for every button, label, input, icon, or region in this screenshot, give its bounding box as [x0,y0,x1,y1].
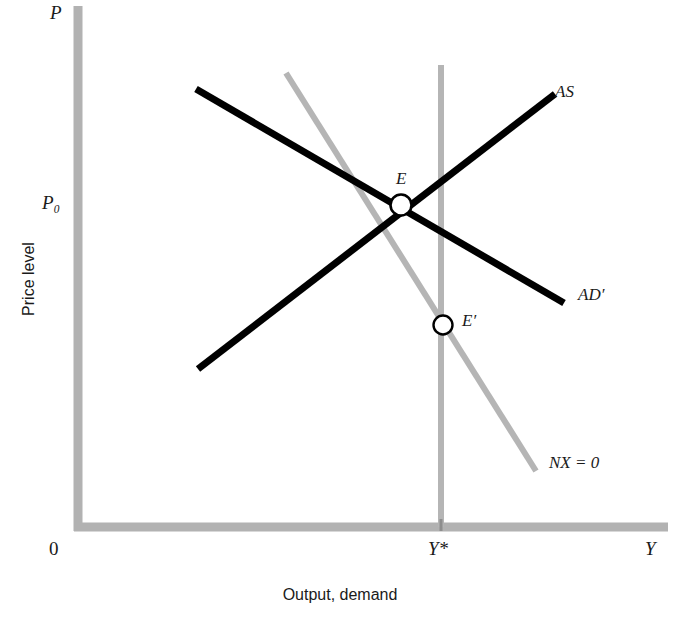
ad-prime-curve[interactable] [196,89,564,303]
x-axis-symbol-label: Y [645,538,656,560]
y-axis-tick-label-p0: P₀ [42,192,60,214]
y-axis-symbol-label: P [50,2,62,24]
curve-label-nx-zero: NX = 0 [549,453,599,473]
curve-label-ad-prime: AD′ [578,285,604,305]
x-axis-tick-label-y-star: Y* [428,538,448,560]
y-axis-title: Price level [20,224,38,334]
point-label-e-prime: E′ [462,311,476,331]
figure-container: P P₀ 0 Y* Y AS AD′ NX = 0 E E′ Price lev… [0,0,680,619]
origin-label: 0 [49,538,59,560]
point-label-e: E [396,169,406,189]
equilibrium-point-E-prime[interactable] [434,316,453,335]
curve-label-as: AS [555,82,574,102]
economics-diagram-svg [0,0,680,619]
equilibrium-point-E[interactable] [391,195,412,216]
black-curves-group [196,89,564,369]
x-axis-title: Output, demand [240,586,440,604]
as-curve[interactable] [198,94,555,369]
